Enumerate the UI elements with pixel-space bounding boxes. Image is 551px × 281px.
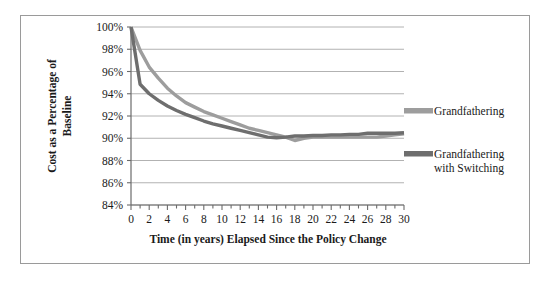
y-axis-tick-label: 92%	[102, 110, 124, 122]
x-axis-tick-label: 16	[271, 213, 283, 225]
x-axis-tick-label: 22	[325, 213, 337, 225]
y-axis-title: Cost as a Percentage of Baseline	[46, 59, 73, 173]
x-axis-tick-label: 2	[146, 213, 152, 225]
x-axis-tick-label: 4	[165, 213, 171, 225]
x-axis-tick-label: 20	[307, 213, 319, 225]
y-axis-tick-label: 96%	[102, 66, 124, 78]
x-axis-tick-label: 8	[201, 213, 207, 225]
x-axis-title: Time (in years) Elapsed Since the Policy…	[149, 233, 386, 246]
y-axis-tick-label: 90%	[102, 132, 124, 144]
data-series-group	[131, 27, 404, 140]
legend-label-grandfathering-with-switching-line2: with Switching	[434, 162, 504, 175]
y-axis-tick-label: 88%	[102, 155, 124, 167]
x-axis-tick-label: 18	[289, 213, 301, 225]
x-axis-tick-label: 14	[253, 213, 265, 225]
y-axis-tick-label: 86%	[102, 177, 124, 189]
y-axis-tick-labels: 100%98%96%94%92%90%88%86%84%	[96, 21, 123, 211]
chart-figure: 100%98%96%94%92%90%88%86%84% 02468101214…	[0, 0, 551, 281]
x-axis-tick-label: 26	[362, 213, 374, 225]
y-axis-title-line2: Baseline	[61, 96, 73, 137]
x-axis-tick-label: 24	[344, 213, 356, 225]
legend-swatch-grandfathering	[404, 108, 433, 114]
y-axis-tick-label: 84%	[102, 199, 124, 211]
line-chart: 100%98%96%94%92%90%88%86%84% 02468101214…	[0, 0, 551, 281]
y-axis-title-line1: Cost as a Percentage of	[46, 59, 59, 173]
series-line-grandfathering-with-switching	[131, 27, 404, 138]
legend-label-grandfathering: Grandfathering	[434, 105, 504, 118]
y-axis-tick-label: 100%	[96, 21, 123, 33]
x-axis-tick-label: 0	[128, 213, 134, 225]
x-axis-tick-label: 28	[380, 213, 392, 225]
x-axis-tick-label: 12	[234, 213, 246, 225]
x-axis-tick-labels: 024681012141618202224262830	[128, 213, 410, 225]
x-axis-tick-label: 6	[183, 213, 189, 225]
x-axis-tick-label: 30	[398, 213, 410, 225]
legend-swatch-grandfathering-with-switching	[404, 151, 433, 157]
chart-legend: Grandfathering Grandfathering with Switc…	[404, 105, 504, 176]
legend-label-grandfathering-with-switching-line1: Grandfathering	[434, 148, 504, 161]
x-axis-tick-label: 10	[216, 213, 228, 225]
series-line-grandfathering	[131, 27, 404, 140]
x-axis-ticks	[131, 205, 404, 210]
gridlines	[131, 27, 404, 205]
y-axis-tick-label: 94%	[102, 88, 124, 100]
y-axis-tick-label: 98%	[102, 43, 124, 55]
